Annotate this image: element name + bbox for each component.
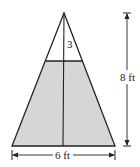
arrow-left-icon (12, 153, 18, 158)
arrow-down-icon (125, 140, 130, 146)
height-dimension: 8 ft (118, 13, 140, 146)
top-height-label: 3 (67, 38, 73, 50)
base-dimension: 6 ft (12, 149, 115, 161)
triangle-diagram: 3 8 ft 6 ft (0, 0, 140, 167)
arrow-up-icon (125, 13, 130, 19)
height-label: 8 ft (120, 71, 135, 83)
arrow-right-icon (109, 153, 115, 158)
base-label: 6 ft (55, 149, 70, 161)
